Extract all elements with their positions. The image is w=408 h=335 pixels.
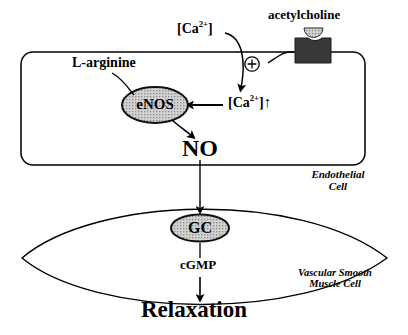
vascular-label-line2: Muscle Cell xyxy=(277,278,393,289)
relaxation-label: Relaxation xyxy=(141,298,247,322)
activation-plus-icon xyxy=(245,57,259,71)
no-label: NO xyxy=(182,136,218,161)
endothelial-cell-label-line2: Cell xyxy=(298,180,378,192)
acetylcholine-ligand-icon xyxy=(304,28,323,38)
cgmp-label: cGMP xyxy=(177,258,219,272)
calcium-in-charge-sup: 2+ xyxy=(250,93,259,103)
gc-label: GC xyxy=(178,219,222,237)
calcium-influx-arrow xyxy=(225,33,243,88)
endothelial-cell-label: Endothelial Cell xyxy=(298,168,378,192)
calcium-extracellular-label: [Ca2+] xyxy=(177,22,213,37)
membrane-receptor-icon xyxy=(295,38,331,63)
diagram-canvas: acetylcholine [Ca2+] [Ca2+]↑ L-arginine … xyxy=(0,0,408,335)
calcium-bracket-close: ] xyxy=(208,21,213,36)
receptor-to-plus-arrow xyxy=(268,52,294,63)
l-arginine-connector xyxy=(112,73,134,95)
enos-label: eNOS xyxy=(125,96,185,113)
enos-to-no-arrow xyxy=(172,120,192,136)
calcium-charge-sup: 2+ xyxy=(199,19,208,29)
calcium-intracellular-label: [Ca2+]↑ xyxy=(228,95,271,111)
endothelial-cell-label-line1: Endothelial xyxy=(298,168,378,180)
calcium-increase-arrow-icon: ↑ xyxy=(264,94,272,110)
calcium-in-bracket-open: [Ca xyxy=(228,95,250,110)
vascular-smooth-muscle-cell-label: Vascular Smooth Muscle Cell xyxy=(277,267,393,289)
acetylcholine-label: acetylcholine xyxy=(268,8,340,22)
vascular-label-line1: Vascular Smooth xyxy=(277,267,393,278)
calcium-bracket-open: [Ca xyxy=(177,21,199,36)
l-arginine-label: L-arginine xyxy=(72,56,136,71)
